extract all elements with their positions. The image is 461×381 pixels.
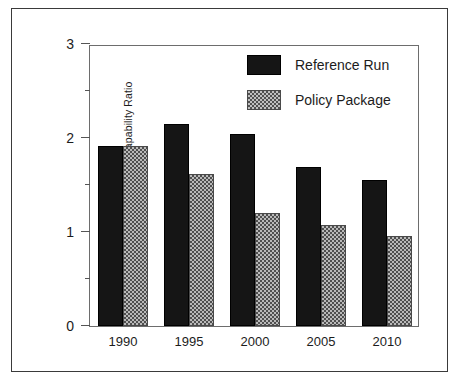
- legend-label-reference-run: Reference Run: [295, 57, 389, 73]
- legend-item-reference-run: Reference Run: [247, 55, 417, 75]
- bar-2005-policy-package: [321, 225, 346, 326]
- x-tick-label-2005: 2005: [307, 334, 336, 349]
- legend: Reference Run Policy Package: [247, 55, 417, 125]
- x-tick-label-1995: 1995: [175, 334, 204, 349]
- x-tick-label-2000: 2000: [241, 334, 270, 349]
- bar-1995-policy-package: [189, 174, 214, 326]
- x-tick-label-2010: 2010: [373, 334, 402, 349]
- figure-panel: USSR to China Capability Ratio 0123 1990…: [11, 8, 448, 372]
- legend-swatch-policy-package: [247, 90, 281, 110]
- bar-2000-reference-run: [230, 134, 255, 326]
- legend-swatch-reference-run: [247, 55, 281, 75]
- bar-2010-policy-package: [387, 236, 412, 326]
- y-minor-tick-2.5: [85, 90, 90, 91]
- x-tick-label-1990: 1990: [109, 334, 138, 349]
- bar-2005-reference-run: [296, 167, 321, 326]
- y-tick-2: 2: [81, 137, 90, 138]
- bar-2000-policy-package: [255, 213, 280, 326]
- y-tick-label-1: 1: [66, 225, 74, 239]
- legend-label-policy-package: Policy Package: [295, 92, 391, 108]
- y-minor-tick-1.5: [85, 184, 90, 185]
- y-minor-tick-0.5: [85, 278, 90, 279]
- plot-area: USSR to China Capability Ratio 0123 1990…: [89, 45, 419, 327]
- y-tick-0: 0: [81, 325, 90, 326]
- y-tick-label-3: 3: [66, 37, 74, 51]
- y-tick-1: 1: [81, 231, 90, 232]
- legend-item-policy-package: Policy Package: [247, 90, 417, 110]
- y-tick-label-2: 2: [66, 131, 74, 145]
- bar-1995-reference-run: [164, 124, 189, 326]
- bar-1990-policy-package: [123, 146, 148, 326]
- y-tick-3: 3: [81, 43, 90, 44]
- y-tick-label-0: 0: [66, 319, 74, 333]
- bar-2010-reference-run: [362, 180, 387, 326]
- bar-1990-reference-run: [98, 146, 123, 326]
